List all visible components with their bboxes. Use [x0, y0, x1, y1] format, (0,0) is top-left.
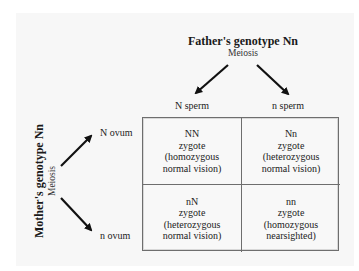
cell-genotype: nN — [186, 196, 198, 208]
punnett-cell-NN: NN zygote (homozygous normal vision) — [143, 118, 242, 185]
cell-desc: (homozygous — [264, 219, 318, 231]
cell-label: zygote — [179, 207, 206, 219]
punnett-cell-nN: nN zygote (heterozygous normal vision) — [143, 185, 242, 252]
cell-label: zygote — [179, 140, 206, 152]
N-sperm-label: N sperm — [172, 100, 212, 111]
cell-label: zygote — [278, 140, 305, 152]
mother-genotype-group: Mother's genotype Nn Meiosis — [26, 121, 62, 241]
cell-genotype: nn — [286, 196, 296, 208]
cell-genotype: Nn — [285, 128, 297, 140]
cell-desc: nearsighted) — [266, 230, 315, 242]
n-ovum-label: n ovum — [100, 230, 130, 241]
N-ovum-label: N ovum — [100, 127, 133, 138]
punnett-square: NN zygote (homozygous normal vision) Nn … — [142, 117, 339, 251]
cell-desc: (heterozygous — [164, 219, 221, 231]
arrow-to-N-sperm — [196, 65, 228, 93]
cell-genotype: NN — [185, 128, 199, 140]
cell-desc: normal vision) — [262, 163, 321, 175]
punnett-cell-nn: nn zygote (homozygous nearsighted) — [242, 185, 340, 252]
arrow-to-N-ovum — [61, 136, 91, 166]
cell-label: zygote — [278, 207, 305, 219]
arrow-to-n-ovum — [61, 198, 91, 230]
n-sperm-label: n sperm — [268, 100, 308, 111]
mother-meiosis-label: Meiosis — [47, 166, 57, 196]
punnett-cell-Nn: Nn zygote (heterozygous normal vision) — [242, 118, 340, 185]
cell-desc: normal vision) — [163, 163, 222, 175]
cell-desc: (heterozygous — [263, 151, 320, 163]
cell-desc: normal vision) — [163, 230, 222, 242]
mother-genotype-title: Mother's genotype Nn — [32, 124, 47, 238]
arrow-to-n-sperm — [257, 65, 288, 94]
cell-desc: (homozygous — [165, 151, 219, 163]
